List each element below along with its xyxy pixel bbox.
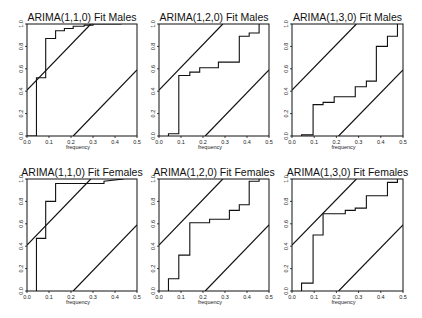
cumulative-periodogram-line: [168, 24, 259, 136]
x-tick-label: 0.3: [221, 294, 229, 300]
cumulative-periodogram-line: [302, 179, 398, 291]
plot-frame: [292, 24, 403, 136]
y-tick-label: 0.0: [18, 287, 24, 295]
x-tick-label: 0.1: [177, 294, 185, 300]
y-tick-label: 0.6: [150, 65, 156, 73]
chart-panel-6: ARIMA(1,3,0) Fit Females0.00.10.20.30.40…: [283, 166, 408, 305]
x-axis-label: frequency: [66, 299, 90, 305]
panel-title: ARIMA(1,2,0) Fit Females: [153, 166, 274, 178]
panel-title: ARIMA(1,3,0) Fit Males: [293, 11, 402, 23]
x-tick-label: 0.3: [221, 139, 229, 145]
x-tick-label: 0.5: [265, 139, 273, 145]
y-tick-label: 0.6: [150, 220, 156, 228]
lower-bound-line: [205, 70, 269, 136]
y-tick-label: 1.0: [283, 20, 289, 28]
x-axis-label: frequency: [66, 144, 90, 150]
panel-title: ARIMA(1,2,0) Fit Males: [159, 11, 268, 23]
upper-bound-line: [292, 24, 356, 90]
y-tick-label: 0.0: [283, 132, 289, 140]
x-tick-label: 0.0: [155, 139, 163, 145]
x-tick-label: 0.0: [23, 294, 31, 300]
cumulative-periodogram-line: [302, 24, 398, 136]
x-tick-label: 0.1: [45, 294, 53, 300]
lower-bound-line: [73, 70, 137, 136]
x-tick-label: 0.5: [399, 294, 407, 300]
chart-panel-3: ARIMA(1,3,0) Fit Males0.00.10.20.30.40.5…: [283, 11, 407, 150]
y-tick-label: 0.0: [150, 287, 156, 295]
x-tick-label: 0.4: [243, 294, 251, 300]
x-tick-label: 0.1: [310, 139, 318, 145]
x-tick-label: 0.4: [377, 139, 385, 145]
panel-title: ARIMA(1,3,0) Fit Females: [287, 166, 408, 178]
x-tick-label: 0.0: [155, 294, 163, 300]
x-tick-label: 0.1: [310, 294, 318, 300]
upper-bound-line: [292, 179, 356, 245]
panel-title: ARIMA(1,1,0) Fit Males: [27, 11, 136, 23]
y-tick-label: 0.0: [150, 132, 156, 140]
y-tick-label: 0.6: [283, 220, 289, 228]
x-tick-label: 0.1: [177, 139, 185, 145]
x-axis-label: frequency: [198, 144, 222, 150]
figure: ARIMA(1,1,0) Fit Males0.00.10.20.30.40.5…: [0, 0, 422, 318]
chart-panel-5: ARIMA(1,2,0) Fit Females0.00.10.20.30.40…: [150, 166, 275, 305]
y-tick-label: 0.4: [283, 242, 289, 250]
lower-bound-line: [339, 225, 403, 291]
lower-bound-line: [205, 225, 269, 291]
y-tick-label: 0.2: [283, 265, 289, 273]
y-tick-label: 0.8: [150, 43, 156, 51]
y-tick-label: 0.2: [150, 110, 156, 118]
x-tick-label: 0.3: [89, 139, 97, 145]
x-tick-label: 0.3: [89, 294, 97, 300]
y-tick-label: 0.2: [18, 265, 24, 273]
x-axis-label: frequency: [198, 299, 222, 305]
y-tick-label: 1.0: [283, 175, 289, 183]
plot-frame: [159, 24, 269, 136]
y-tick-label: 0.4: [18, 242, 24, 250]
y-tick-label: 0.4: [283, 87, 289, 95]
x-tick-label: 0.3: [355, 294, 363, 300]
y-tick-label: 1.0: [150, 20, 156, 28]
y-tick-label: 0.8: [18, 198, 24, 206]
y-tick-label: 0.8: [283, 43, 289, 51]
x-tick-label: 0.4: [377, 294, 385, 300]
plot-frame: [27, 179, 137, 291]
x-axis-label: frequency: [331, 144, 355, 150]
x-tick-label: 0.3: [355, 139, 363, 145]
x-tick-label: 0.5: [133, 139, 141, 145]
y-tick-label: 0.6: [283, 65, 289, 73]
y-tick-label: 0.4: [150, 87, 156, 95]
lower-bound-line: [73, 225, 137, 291]
y-tick-label: 0.2: [18, 110, 24, 118]
plot-frame: [27, 24, 137, 136]
y-tick-label: 0.8: [18, 43, 24, 51]
x-tick-label: 0.4: [111, 294, 119, 300]
panel-title: ARIMA(1,1,0) Fit Females: [21, 166, 142, 178]
upper-bound-line: [27, 24, 91, 90]
upper-bound-line: [159, 24, 223, 90]
x-tick-label: 0.0: [23, 139, 31, 145]
y-tick-label: 0.2: [283, 110, 289, 118]
y-tick-label: 0.8: [150, 198, 156, 206]
x-tick-label: 0.4: [243, 139, 251, 145]
y-tick-label: 0.4: [150, 242, 156, 250]
x-tick-label: 0.0: [288, 139, 296, 145]
x-tick-label: 0.5: [133, 294, 141, 300]
y-tick-label: 0.0: [283, 287, 289, 295]
x-tick-label: 0.5: [399, 139, 407, 145]
cumulative-periodogram-line: [168, 179, 259, 291]
cumulative-periodogram-line: [36, 179, 123, 291]
y-tick-label: 0.6: [18, 220, 24, 228]
x-tick-label: 0.4: [111, 139, 119, 145]
y-tick-label: 0.6: [18, 65, 24, 73]
plot-frame: [159, 179, 269, 291]
x-axis-label: frequency: [331, 299, 355, 305]
upper-bound-line: [159, 179, 223, 245]
y-tick-label: 0.8: [283, 198, 289, 206]
y-tick-label: 1.0: [18, 20, 24, 28]
chart-panel-4: ARIMA(1,1,0) Fit Females0.00.10.20.30.40…: [18, 166, 143, 305]
x-tick-label: 0.5: [265, 294, 273, 300]
y-tick-label: 0.0: [18, 132, 24, 140]
chart-panel-1: ARIMA(1,1,0) Fit Males0.00.10.20.30.40.5…: [18, 11, 141, 150]
lower-bound-line: [339, 70, 403, 136]
y-tick-label: 0.2: [150, 265, 156, 273]
